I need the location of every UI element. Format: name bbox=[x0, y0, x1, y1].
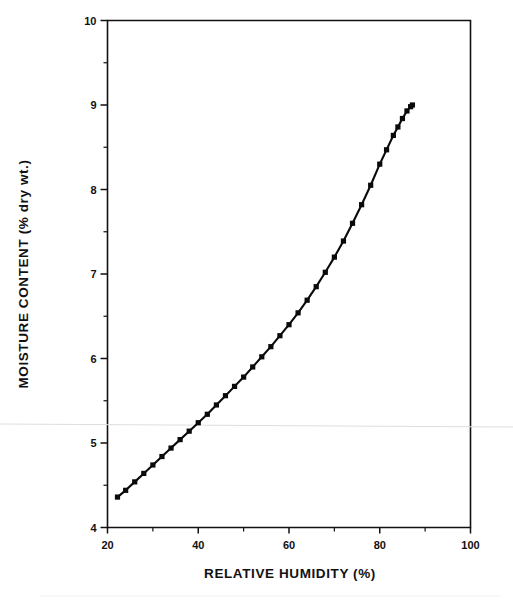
data-point-marker bbox=[123, 488, 128, 493]
data-point-marker bbox=[341, 238, 346, 243]
data-point-marker bbox=[377, 162, 382, 167]
scan-artifact-line bbox=[0, 424, 513, 427]
moisture-sorption-chart: 45678910 20406080100 MOISTURE CONTENT (%… bbox=[0, 0, 513, 602]
data-point-marker bbox=[150, 462, 155, 467]
data-point-marker bbox=[384, 147, 389, 152]
data-point-marker bbox=[350, 221, 355, 226]
x-axis-title: RELATIVE HUMIDITY (%) bbox=[204, 566, 376, 581]
x-tick-label: 80 bbox=[374, 539, 386, 551]
data-point-marker bbox=[391, 133, 396, 138]
plot-frame bbox=[108, 21, 471, 528]
x-tick-label: 100 bbox=[461, 539, 479, 551]
data-point-marker bbox=[305, 298, 310, 303]
data-point-marker bbox=[232, 384, 237, 389]
data-point-marker bbox=[332, 255, 337, 260]
data-point-marker bbox=[250, 364, 255, 369]
data-curve bbox=[117, 105, 412, 497]
data-point-marker bbox=[159, 454, 164, 459]
data-point-marker bbox=[359, 202, 364, 207]
y-axis-tick-labels: 45678910 bbox=[84, 15, 97, 534]
data-point-marker bbox=[132, 479, 137, 484]
data-point-marker bbox=[410, 102, 415, 107]
x-axis-major-ticks bbox=[108, 528, 471, 534]
x-axis-tick-labels: 20406080100 bbox=[101, 539, 479, 551]
x-tick-label: 20 bbox=[101, 539, 113, 551]
data-point-marker bbox=[141, 471, 146, 476]
y-axis-major-ticks bbox=[101, 21, 108, 528]
x-tick-label: 40 bbox=[192, 539, 204, 551]
data-point-marker bbox=[295, 310, 300, 315]
data-point-marker bbox=[259, 354, 264, 359]
y-tick-label: 9 bbox=[90, 99, 96, 111]
data-point-marker bbox=[395, 124, 400, 129]
data-point-marker bbox=[187, 429, 192, 434]
y-tick-label: 5 bbox=[90, 437, 96, 449]
y-axis-title: MOISTURE CONTENT (% dry wt.) bbox=[16, 159, 31, 388]
data-point-marker bbox=[168, 445, 173, 450]
y-tick-label: 8 bbox=[90, 184, 96, 196]
data-point-marker bbox=[277, 333, 282, 338]
data-series-layer bbox=[115, 102, 415, 499]
data-point-marker bbox=[223, 393, 228, 398]
data-point-marker bbox=[214, 402, 219, 407]
data-point-marker bbox=[286, 322, 291, 327]
y-tick-label: 7 bbox=[90, 268, 96, 280]
data-point-marker bbox=[178, 437, 183, 442]
y-tick-label: 6 bbox=[90, 353, 96, 365]
data-point-marker bbox=[196, 420, 201, 425]
data-point-marker bbox=[323, 270, 328, 275]
data-point-marker bbox=[368, 183, 373, 188]
data-point-marker bbox=[115, 494, 120, 499]
figure-container: 45678910 20406080100 MOISTURE CONTENT (%… bbox=[0, 0, 513, 602]
data-point-marker bbox=[268, 344, 273, 349]
data-point-marker bbox=[400, 116, 405, 121]
data-point-marker bbox=[205, 412, 210, 417]
y-tick-label: 10 bbox=[84, 15, 96, 27]
x-tick-label: 60 bbox=[283, 539, 295, 551]
y-tick-label: 4 bbox=[90, 522, 97, 534]
data-point-marker bbox=[241, 374, 246, 379]
data-point-marker bbox=[314, 284, 319, 289]
